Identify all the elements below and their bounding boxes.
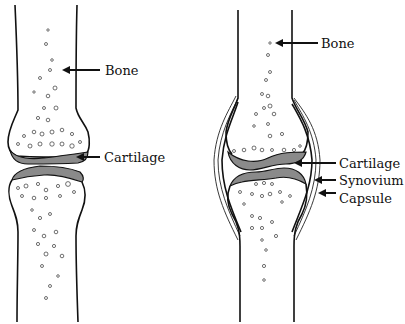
right-upper-bone bbox=[226, 10, 308, 154]
right-upper-cartilage bbox=[228, 152, 306, 170]
right-lower-bone-pores bbox=[239, 181, 292, 281]
right-upper-bone-pores bbox=[233, 42, 302, 153]
left-lower-bone bbox=[9, 180, 85, 322]
right-synovium-label: Synovium bbox=[339, 173, 404, 188]
right-capsule-label: Capsule bbox=[339, 191, 392, 206]
left-joint: Bone Cartilage bbox=[8, 5, 166, 322]
left-bone-label: Bone bbox=[105, 63, 139, 78]
left-upper-bone-pores bbox=[17, 29, 82, 148]
right-lower-bone bbox=[228, 184, 307, 322]
right-lower-cartilage bbox=[230, 168, 306, 186]
arrow-head-icon bbox=[275, 39, 283, 47]
left-cartilage-label: Cartilage bbox=[104, 150, 166, 165]
right-joint: Bone Cartilage Synovium Capsule bbox=[214, 10, 404, 322]
arrow-head-icon bbox=[62, 66, 70, 74]
left-upper-bone bbox=[8, 5, 89, 157]
left-lower-cartilage bbox=[12, 166, 83, 182]
right-capsule-mid-right bbox=[294, 100, 316, 236]
right-bone-label: Bone bbox=[321, 36, 355, 51]
right-cartilage-label: Cartilage bbox=[339, 156, 401, 171]
joint-diagram: Bone Cartilage bbox=[0, 0, 405, 324]
arrow-head-icon bbox=[318, 189, 326, 197]
left-lower-bone-pores bbox=[17, 182, 76, 300]
